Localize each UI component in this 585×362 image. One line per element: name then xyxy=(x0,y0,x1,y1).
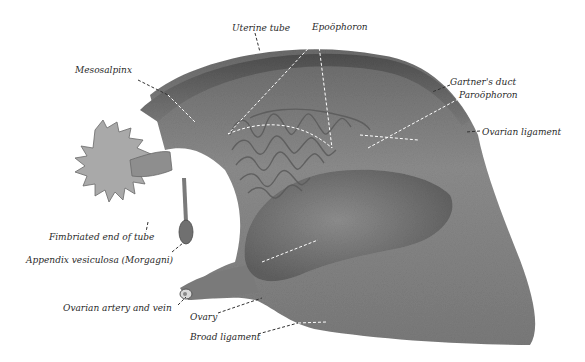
label-gartners-duct: Gartner's duct xyxy=(450,78,516,87)
label-ovarian-artery-vein: Ovarian artery and vein xyxy=(63,304,172,313)
appendix-vesiculosa-shape xyxy=(179,178,193,244)
label-epoophoron: Epoöphoron xyxy=(312,23,368,32)
label-fimbriated-end: Fimbriated end of tube xyxy=(49,233,154,242)
label-ovary: Ovary xyxy=(190,313,217,322)
label-ovarian-ligament: Ovarian ligament xyxy=(482,128,561,137)
label-paroophoron: Paroöphoron xyxy=(459,91,518,100)
label-mesosalpinx: Mesosalpinx xyxy=(75,66,132,75)
label-broad-ligament: Broad ligament xyxy=(190,333,260,342)
label-appendix-vesiculosa: Appendix vesiculosa (Morgagni) xyxy=(26,256,173,265)
fimbriated-end-shape xyxy=(75,120,172,202)
label-uterine-tube: Uterine tube xyxy=(232,24,290,33)
